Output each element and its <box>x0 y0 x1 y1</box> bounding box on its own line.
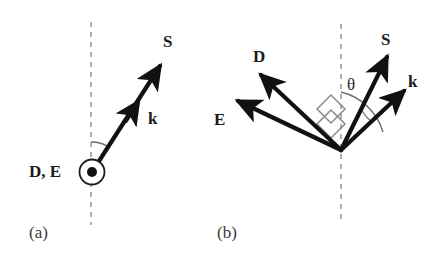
panel-b-label-theta: θ <box>347 76 355 93</box>
panel-b-vector-E <box>238 101 341 150</box>
panel-b-vector-k <box>341 91 404 150</box>
panel-a-angle-arc <box>91 142 107 146</box>
panel-a-label-S: S <box>163 33 172 50</box>
panel-b-vector-S <box>341 57 387 150</box>
panel-b-caption: (b) <box>217 224 237 241</box>
panel-b-label-S: S <box>381 31 390 48</box>
panel-b-label-D: D <box>253 48 265 65</box>
panel-a-caption: (a) <box>29 224 48 241</box>
panel-b-label-k: k <box>408 73 417 90</box>
panel-a-label-D-E: D, E <box>29 163 61 180</box>
panel-a-circle-dot-center <box>87 167 97 177</box>
vector-diagram-figure: S k D, E (a) D E S k θ (b) <box>0 0 444 263</box>
panel-b-label-E: E <box>214 111 225 128</box>
panel-a-label-k: k <box>148 110 157 127</box>
